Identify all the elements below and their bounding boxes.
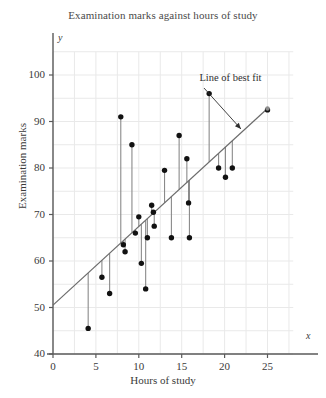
data-point <box>107 291 112 296</box>
data-point <box>129 142 134 147</box>
x-axis-letter: x <box>306 330 310 341</box>
y-tick-label: 80 <box>0 161 45 173</box>
data-point <box>121 242 126 247</box>
data-point <box>118 114 123 119</box>
data-point <box>169 235 174 240</box>
scatter-chart-figure: Examination marks against hours of study… <box>0 0 326 398</box>
y-tick-label: 90 <box>0 115 45 127</box>
data-point <box>187 235 192 240</box>
data-point <box>184 156 189 161</box>
data-point <box>143 286 148 291</box>
data-point <box>136 214 141 219</box>
x-tick-label: 15 <box>162 360 202 372</box>
data-point <box>133 230 138 235</box>
y-tick-label: 100 <box>0 68 45 80</box>
best-fit-annotation-label: Line of best fit <box>199 72 261 83</box>
data-point <box>151 209 156 214</box>
y-tick-label: 70 <box>0 208 45 220</box>
y-tick-label: 40 <box>0 347 45 359</box>
plot-area <box>0 0 326 398</box>
data-point <box>186 200 191 205</box>
data-point <box>230 165 235 170</box>
x-tick-label: 20 <box>205 360 245 372</box>
data-point <box>176 133 181 138</box>
data-point <box>162 168 167 173</box>
gridlines <box>53 52 293 354</box>
data-point <box>223 175 228 180</box>
data-point <box>216 165 221 170</box>
data-point <box>122 249 127 254</box>
data-point <box>139 261 144 266</box>
best-fit-endpoint-marker <box>265 106 269 110</box>
x-tick-label: 0 <box>33 360 73 372</box>
x-tick-label: 10 <box>119 360 159 372</box>
data-point <box>99 275 104 280</box>
data-point <box>149 203 154 208</box>
x-tick-label: 5 <box>76 360 116 372</box>
x-tick-label: 25 <box>248 360 288 372</box>
data-points <box>85 91 270 331</box>
data-point <box>145 235 150 240</box>
x-axis-label: Hours of study <box>0 374 326 386</box>
chart-title: Examination marks against hours of study <box>0 9 326 21</box>
y-tick-label: 50 <box>0 301 45 313</box>
y-tick-label: 60 <box>0 254 45 266</box>
data-point <box>85 326 90 331</box>
data-point <box>152 223 157 228</box>
y-axis-letter: y <box>58 32 62 43</box>
